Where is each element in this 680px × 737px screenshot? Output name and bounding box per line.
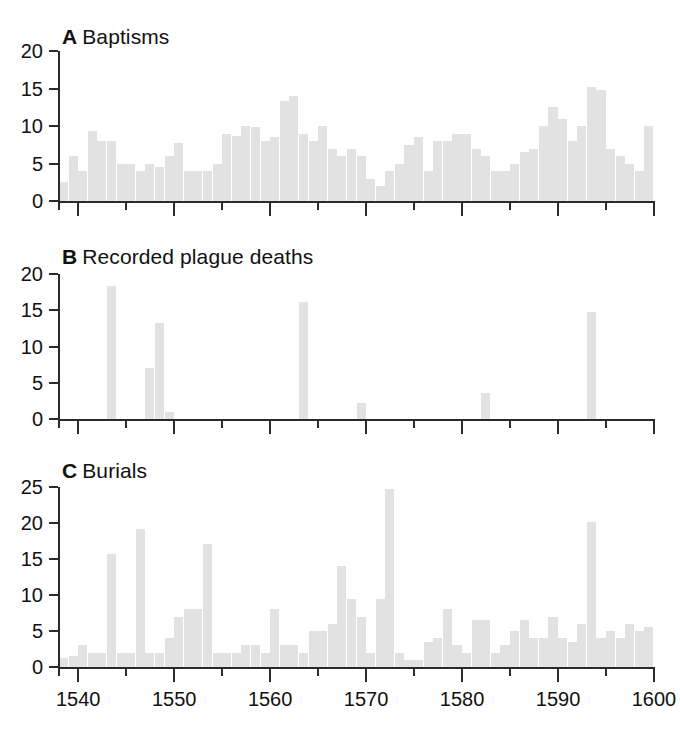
bar — [395, 164, 404, 202]
panel-c-title: CBurials — [62, 460, 147, 482]
bar — [203, 171, 212, 201]
x-tick-major — [173, 669, 175, 682]
bar — [520, 152, 529, 201]
bar — [587, 87, 596, 201]
bar — [107, 554, 116, 667]
bar — [59, 182, 68, 201]
panel-a-title: ABaptisms — [62, 26, 169, 48]
bar — [97, 141, 106, 201]
bar — [596, 90, 605, 201]
bar — [165, 412, 174, 419]
bar — [366, 653, 375, 667]
x-tick-major — [269, 203, 271, 216]
x-tick-label: 1560 — [230, 689, 310, 709]
bar — [88, 131, 97, 201]
bar — [481, 156, 490, 201]
bar — [558, 638, 567, 667]
x-tick-minor — [509, 669, 511, 676]
y-tick-label: 10 — [1, 585, 43, 605]
x-tick-major — [557, 669, 559, 682]
bar — [596, 638, 605, 667]
bar — [88, 653, 97, 667]
bar — [126, 164, 135, 202]
bar — [299, 302, 308, 419]
x-axis-start-cap — [58, 421, 60, 428]
bar — [270, 137, 279, 201]
bar — [491, 171, 500, 201]
x-tick-minor — [413, 203, 415, 210]
x-axis-start-cap — [58, 669, 60, 676]
bar — [529, 149, 538, 202]
bar — [510, 631, 519, 667]
bar — [309, 141, 318, 201]
bar — [452, 645, 461, 667]
y-tick — [49, 382, 58, 384]
bar — [433, 638, 442, 667]
bar — [558, 119, 567, 202]
y-tick — [49, 346, 58, 348]
bar — [78, 645, 87, 667]
bar — [165, 638, 174, 667]
panel-a-bars — [59, 51, 654, 201]
bar — [529, 638, 538, 667]
bar — [145, 368, 154, 419]
bar — [222, 653, 231, 667]
bar — [155, 653, 164, 667]
y-axis-line — [58, 274, 60, 420]
bar — [404, 660, 413, 667]
x-tick-minor — [317, 203, 319, 210]
bar — [299, 134, 308, 202]
bar — [299, 653, 308, 667]
x-tick-label: 1590 — [518, 689, 598, 709]
panel-c-bars — [59, 487, 654, 667]
panel-b-title: BRecorded plague deaths — [62, 246, 313, 268]
x-tick-major — [653, 203, 655, 216]
x-tick-major — [461, 203, 463, 216]
bar — [443, 141, 452, 201]
bar — [174, 617, 183, 667]
x-tick-minor — [221, 669, 223, 676]
bar — [328, 624, 337, 667]
y-tick-label: 15 — [1, 549, 43, 569]
bar — [213, 164, 222, 202]
y-tick-label: 20 — [1, 264, 43, 284]
bar — [577, 624, 586, 667]
bar — [347, 149, 356, 202]
bar — [126, 653, 135, 667]
bar — [289, 645, 298, 667]
bar — [241, 645, 250, 667]
bar — [117, 164, 126, 202]
bar — [568, 141, 577, 201]
y-tick — [49, 163, 58, 165]
x-tick-label: 1570 — [326, 689, 406, 709]
bar — [193, 609, 202, 667]
x-tick-major — [365, 421, 367, 434]
y-tick — [49, 273, 58, 275]
bar — [193, 171, 202, 201]
x-tick-major — [269, 421, 271, 434]
bar — [347, 599, 356, 667]
bar — [376, 186, 385, 201]
bar — [635, 171, 644, 201]
y-tick — [49, 630, 58, 632]
bar — [145, 164, 154, 202]
bar — [472, 620, 481, 667]
x-tick-minor — [317, 421, 319, 428]
panel-c-letter: C — [62, 459, 77, 482]
bar — [635, 631, 644, 667]
bar — [376, 599, 385, 667]
y-tick-label: 15 — [1, 79, 43, 99]
x-tick-minor — [125, 421, 127, 428]
x-tick-minor — [509, 203, 511, 210]
bar — [136, 529, 145, 667]
bar — [165, 156, 174, 201]
bar — [309, 631, 318, 667]
panel-b-plague-deaths: BRecorded plague deaths 05101520 — [0, 234, 669, 444]
bar — [404, 145, 413, 201]
x-axis-line — [58, 201, 655, 203]
bar — [587, 522, 596, 667]
bar — [174, 143, 183, 202]
bar — [644, 627, 653, 667]
bar — [136, 171, 145, 201]
bar — [241, 126, 250, 201]
